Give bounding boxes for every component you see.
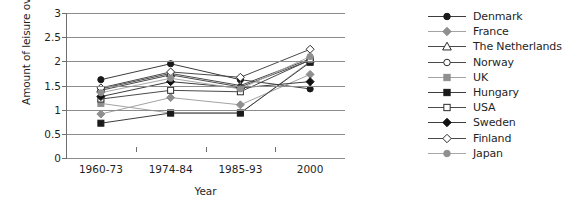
y-axis-title: Amount of leisure over work xyxy=(20,0,32,112)
data-point-marker xyxy=(237,110,243,116)
legend-label: Sweden xyxy=(468,116,516,129)
x-axis-tick xyxy=(136,147,137,152)
gridline xyxy=(66,110,345,111)
legend-item-france[interactable]: France xyxy=(428,24,565,39)
data-point-marker xyxy=(167,94,175,102)
y-axis-tick xyxy=(62,37,67,38)
x-axis-tick xyxy=(206,147,207,152)
legend-item-sweden[interactable]: Sweden xyxy=(428,115,565,130)
x-axis-tick-label: 1960-73 xyxy=(79,163,123,175)
legend-key-icon xyxy=(428,131,468,146)
series-france xyxy=(97,70,314,118)
x-axis-tick-label: 1974-84 xyxy=(149,163,193,175)
legend-item-usa[interactable]: USA xyxy=(428,100,565,115)
legend-item-japan[interactable]: Japan xyxy=(428,146,565,161)
x-axis-tick-label: 2000 xyxy=(297,163,324,175)
legend-key-icon xyxy=(428,24,468,39)
legend-item-the-netherlands[interactable]: The Netherlands xyxy=(428,39,565,54)
gridline xyxy=(66,13,345,14)
plot-area xyxy=(66,13,345,158)
gridline xyxy=(66,37,345,38)
y-axis-tick-label: 2 xyxy=(54,55,61,67)
legend-key-icon xyxy=(428,100,468,115)
y-axis-tick-label: 3 xyxy=(54,7,61,19)
legend-key-icon xyxy=(428,39,468,54)
data-point-marker xyxy=(97,110,105,118)
x-axis-title: Year xyxy=(66,185,345,197)
data-point-marker xyxy=(307,86,313,92)
y-axis-tick-label: 0.5 xyxy=(44,128,61,140)
y-axis-tick xyxy=(62,13,67,14)
x-axis-tick-labels: 1960-731974-841985-932000 xyxy=(66,163,345,179)
leisure-over-work-line-chart: Amount of leisure over work 00.511.522.5… xyxy=(0,0,565,207)
legend-label: France xyxy=(468,25,509,38)
legend-label: Norway xyxy=(468,56,514,69)
legend-label: Finland xyxy=(468,132,511,145)
legend-label: Denmark xyxy=(468,10,523,23)
data-point-marker xyxy=(168,110,174,116)
legend-item-uk[interactable]: UK xyxy=(428,70,565,85)
y-axis-tick xyxy=(62,61,67,62)
y-axis-tick-label: 0 xyxy=(54,152,61,164)
legend-item-finland[interactable]: Finland xyxy=(428,131,565,146)
legend-label: UK xyxy=(468,71,488,84)
gridline xyxy=(66,86,345,87)
data-point-marker xyxy=(98,77,104,83)
legend-key-icon xyxy=(428,85,468,100)
data-point-marker xyxy=(168,87,174,93)
legend: DenmarkFranceThe NetherlandsNorwayUKHung… xyxy=(428,9,565,161)
y-axis-tick xyxy=(62,110,67,111)
gridline xyxy=(66,158,345,159)
y-axis-tick-label: 1.5 xyxy=(44,80,61,92)
y-axis-tick-label: 1 xyxy=(54,104,61,116)
legend-item-denmark[interactable]: Denmark xyxy=(428,9,565,24)
series-norway xyxy=(98,57,313,93)
legend-key-icon xyxy=(428,70,468,85)
data-point-marker xyxy=(306,45,314,53)
legend-key-icon xyxy=(428,115,468,130)
data-point-marker xyxy=(168,75,174,81)
data-point-marker xyxy=(306,78,314,86)
legend-key-icon xyxy=(428,9,468,24)
data-point-marker xyxy=(236,101,244,109)
data-point-marker xyxy=(307,53,313,59)
legend-key-icon xyxy=(428,146,468,161)
y-axis-tick xyxy=(62,86,67,87)
legend-item-norway[interactable]: Norway xyxy=(428,55,565,70)
y-axis-tick-label: 2.5 xyxy=(44,31,61,43)
y-axis-tick-labels: 00.511.522.53 xyxy=(36,13,61,158)
series-line xyxy=(101,61,310,113)
gridline xyxy=(66,61,345,62)
legend-label: Hungary xyxy=(468,86,519,99)
y-axis-tick xyxy=(62,158,67,159)
x-axis-tick xyxy=(275,147,276,152)
y-axis-tick xyxy=(62,134,67,135)
data-point-marker xyxy=(98,90,104,96)
legend-key-icon xyxy=(428,55,468,70)
data-point-marker xyxy=(98,120,104,126)
x-axis-tick-label: 1985-93 xyxy=(218,163,262,175)
data-point-marker xyxy=(237,86,243,92)
legend-label: USA xyxy=(468,101,495,114)
legend-label: Japan xyxy=(468,147,503,160)
legend-label: The Netherlands xyxy=(468,40,562,53)
series-hungary xyxy=(98,59,313,126)
legend-item-hungary[interactable]: Hungary xyxy=(428,85,565,100)
gridline xyxy=(66,134,345,135)
